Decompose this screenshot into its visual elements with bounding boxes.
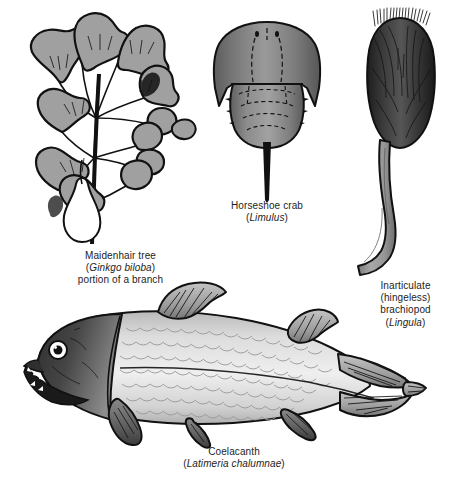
- coelacanth-caption: Coelacanth (Latimeria chalumnae): [134, 446, 334, 470]
- coelacanth-common-name: Coelacanth: [134, 446, 334, 458]
- horseshoe-telson: [263, 142, 271, 203]
- brachiopod-shell: [367, 18, 435, 148]
- coelacanth-caudal-epicaudal-lobe: [403, 382, 426, 396]
- brachiopod-illustration: [352, 8, 462, 280]
- coelacanth-second-dorsal-fin: [288, 310, 338, 343]
- brachiopod-svg: [352, 8, 462, 280]
- living-fossils-figure: Maidenhair tree (Ginkgo biloba) portion …: [0, 0, 465, 477]
- coelacanth-illustration: [8, 282, 428, 447]
- ginkgo-illustration: [14, 6, 214, 251]
- coelacanth-svg: [8, 282, 428, 447]
- coelacanth-eye: [49, 341, 67, 359]
- ginkgo-scientific-name: (Ginkgo biloba): [33, 262, 208, 274]
- brachiopod-pedicle: [358, 140, 396, 275]
- horseshoe-crab-svg: [205, 14, 330, 204]
- horseshoe-scientific-name: (Limulus): [197, 212, 337, 224]
- ginkgo-common-name: Maidenhair tree: [33, 250, 208, 262]
- ginkgo-svg: [14, 6, 214, 251]
- horseshoe-crab-caption: Horseshoe crab (Limulus): [197, 200, 337, 224]
- coelacanth-scientific-name: (Latimeria chalumnae): [134, 458, 334, 470]
- horseshoe-common-name: Horseshoe crab: [197, 200, 337, 212]
- horseshoe-crab-illustration: [205, 14, 330, 204]
- ginkgo-bud: [172, 120, 196, 140]
- coelacanth-first-dorsal-fin: [158, 282, 226, 318]
